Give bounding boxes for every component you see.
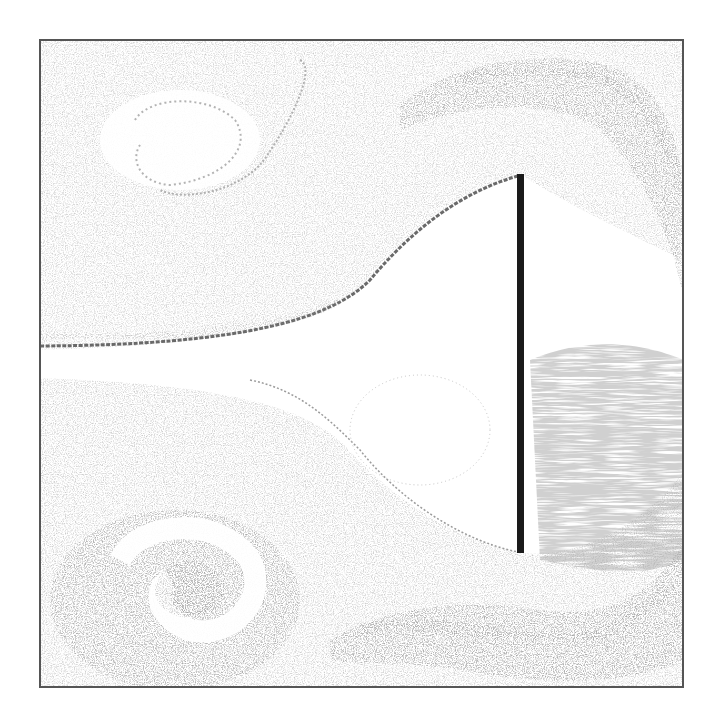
right-streak-region	[530, 344, 684, 571]
flow-visualization-figure	[0, 0, 720, 725]
flow-field	[40, 40, 684, 690]
flow-visualization-canvas	[0, 0, 720, 725]
lower-left-vortex	[50, 510, 300, 690]
flat-plate	[517, 174, 524, 553]
